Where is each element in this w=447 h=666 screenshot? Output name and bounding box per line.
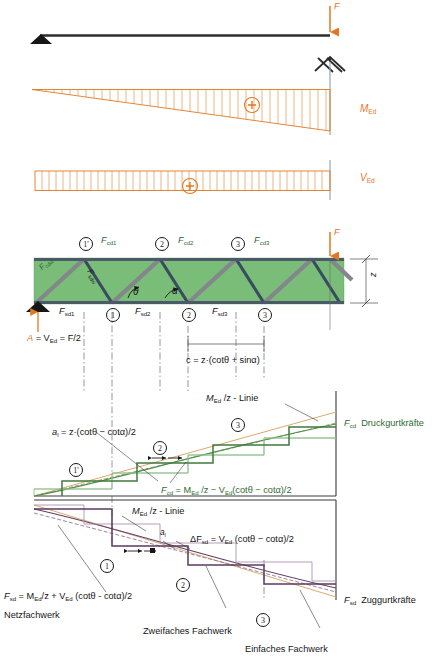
delta-fsd-formula: ΔFsd = VEd (cotθ − cotα)/2 (190, 535, 294, 545)
truss-load-label-F: F (334, 228, 340, 238)
al-label-lower: al (160, 529, 166, 538)
structural-system (30, 6, 330, 44)
bottom-chord-force-1: Fsd1 (59, 307, 74, 317)
reaction-label: A = VEd = F/2 (27, 334, 81, 344)
upper-mz-line-label: MEd /z - Linie (206, 394, 258, 404)
fsd-formula: Fsd = MEd/z + VEd (cotθ - cotα)/2 (4, 592, 132, 602)
spacing-dimension (188, 336, 264, 352)
fsd-curve (34, 509, 336, 588)
angle-alpha-label: α (172, 286, 178, 297)
leader-netzfachwerk (58, 525, 106, 592)
leader-fcd-formula (170, 462, 186, 483)
bottom-chord-force-3: Fsd3 (212, 307, 227, 317)
lower-chart (34, 500, 336, 628)
moment-over-z-line-tan (34, 412, 336, 496)
top-chord-force-2: Fcd2 (178, 236, 193, 246)
leader-mz-lower (122, 516, 146, 531)
lower-chart-node-2: 2 (176, 578, 190, 592)
spacing-formula: c = z·(cotθ + sinα) (186, 356, 260, 366)
shear-diagram-label: VEd (360, 173, 375, 184)
leader-mz-upper (285, 404, 318, 421)
leader-einfaches (300, 590, 320, 628)
moment-diagram-label: MEd (360, 104, 376, 115)
truss-top-node-1: 1' (79, 237, 93, 251)
upper-chart-node-1: 1' (69, 463, 83, 477)
al-formula-upper: al = z·(cotθ − cotα)/2 (52, 428, 136, 438)
fcd-formula: Fcd = MEd /z − VEd(cotθ − cotα)/2 (161, 486, 292, 496)
truss-bottom-node-1: 1 (106, 308, 120, 322)
truss-top-node-3: 3 (231, 237, 245, 251)
lower-chart-axis-label: Fsd Zuggurtkräfte (344, 596, 416, 606)
legend-einfaches-fachwerk: Einfaches Fachwerk (245, 645, 328, 655)
upper-chart (34, 391, 336, 496)
leader-delta-fsd (176, 541, 190, 549)
leader-al-upper (96, 432, 158, 481)
al-dimension-lower (128, 548, 156, 553)
truss-top-node-2: 2 (155, 237, 169, 251)
bottom-chord-force-2: Fsd2 (135, 307, 150, 317)
angle-theta-label: θ (133, 287, 138, 298)
upper-chart-node-2: 2 (153, 441, 167, 455)
truss-bottom-node-2: 2 (182, 308, 196, 322)
legend-zweifaches-fachwerk: Zweifaches Fachwerk (143, 627, 232, 637)
depth-dimension (350, 255, 378, 307)
shear-diagram (35, 160, 330, 200)
truss-bottom-node-3: 3 (258, 308, 272, 322)
lower-chart-node-1: 1 (100, 559, 114, 573)
leader-zweifaches (206, 566, 226, 608)
top-chord-force-3: Fcd3 (254, 236, 269, 246)
lower-mz-line-label: MEd /z - Linie (132, 507, 184, 517)
depth-label-z: z (369, 272, 379, 277)
legend-netzfachwerk: Netzfachwerk (4, 611, 60, 621)
top-chord-force-1: Fcd1 (101, 236, 116, 246)
lower-chart-node-3: 3 (256, 613, 270, 627)
upper-chart-axis-label: Fcd Druckgurtkräfte (344, 419, 424, 429)
load-label-F: F (334, 2, 340, 12)
upper-chart-node-3: 3 (231, 418, 245, 432)
moment-diagram (32, 57, 345, 135)
figure-canvas: F MEd VEd F Fcd1 Fcd2 Fcd3 Fsd1 Fsd2 Fsd… (0, 0, 447, 666)
